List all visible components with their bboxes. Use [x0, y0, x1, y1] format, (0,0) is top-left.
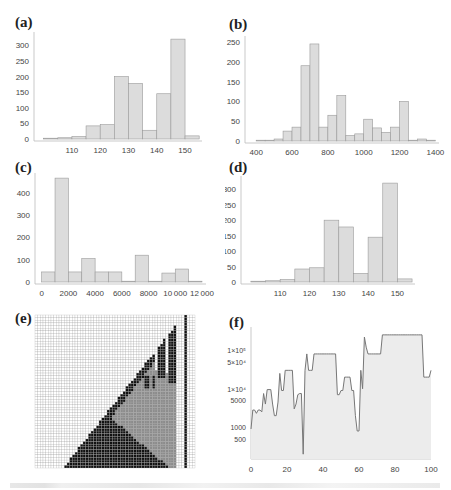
histogram-bar: [280, 280, 295, 282]
histogram-bar: [346, 135, 355, 141]
panel-b: (b) 050100150200250400600800100012001400: [225, 0, 451, 155]
histogram-bar: [143, 130, 157, 139]
x-tick-label: 1200: [391, 148, 409, 155]
histogram-bar: [355, 134, 364, 141]
x-tick-label: 400: [249, 148, 263, 155]
histogram-bar: [266, 281, 281, 282]
histogram-bar: [397, 279, 412, 282]
histogram-bar: [108, 272, 121, 282]
x-tick-label: 140: [361, 289, 375, 298]
y-tick-label: 100: [227, 97, 241, 106]
histogram-bar: [135, 255, 148, 282]
panel-f: (f) 500100050001×10⁴5×10⁴1×10⁵0204060801…: [225, 305, 451, 480]
x-tick-label: 130: [332, 289, 346, 298]
y-tick-label: 0: [26, 278, 31, 287]
x-tick-label: 1400: [427, 148, 445, 155]
x-tick-label: 12 000: [190, 289, 214, 298]
y-tick-label: 0: [236, 137, 241, 146]
histogram-bar: [95, 272, 108, 282]
y-tick-label: 250: [227, 38, 241, 47]
y-tick-label: 50: [20, 119, 29, 128]
histogram-bar: [251, 281, 266, 282]
y-tick-label: 50: [231, 117, 240, 126]
x-tick-label: 800: [321, 148, 335, 155]
histogram-bar: [409, 140, 418, 141]
histogram-bar: [310, 44, 319, 141]
y-tick-label: 150: [16, 88, 30, 97]
y-tick-label: 1×10⁴: [227, 386, 246, 393]
histogram-bar: [175, 269, 188, 282]
histogram-bar: [82, 259, 95, 282]
y-tick-label: 100: [225, 247, 237, 256]
y-tick-label: 250: [225, 201, 237, 210]
histogram-c: 01002003004000200040006000800010 00012 0…: [0, 155, 225, 305]
histogram-bar: [171, 39, 185, 139]
y-tick-label: 5×10⁴: [227, 359, 246, 366]
y-tick-label: 300: [17, 211, 31, 220]
y-tick-label: 200: [17, 233, 31, 242]
y-tick-label: 0: [232, 278, 237, 287]
histogram-bar: [55, 178, 68, 282]
x-tick-label: 100: [424, 465, 438, 474]
histogram-bar: [328, 115, 337, 141]
y-tick-label: 100: [17, 256, 31, 265]
histogram-bar: [400, 101, 409, 141]
histogram-bar: [100, 125, 114, 139]
x-tick-label: 2000: [59, 289, 77, 298]
panel-d-label: (d): [229, 159, 247, 176]
y-tick-label: 5000: [230, 397, 246, 404]
x-tick-label: 120: [94, 146, 108, 155]
histogram-bar: [368, 237, 383, 282]
histogram-bar: [373, 128, 382, 141]
log-line-chart: 500100050001×10⁴5×10⁴1×10⁵020406080100: [225, 305, 451, 480]
x-tick-label: 140: [150, 146, 164, 155]
y-tick-label: 0: [25, 135, 30, 144]
histogram-bar: [324, 220, 339, 282]
y-tick-label: 150: [225, 232, 237, 241]
x-tick-label: 40: [319, 465, 328, 474]
histogram-bar: [44, 138, 58, 139]
x-tick-label: 110: [274, 289, 287, 298]
histogram-bar: [382, 132, 391, 141]
panel-b-label: (b): [229, 16, 247, 33]
x-tick-label: 120: [303, 289, 317, 298]
histogram-bar: [364, 119, 373, 141]
x-tick-label: 20: [283, 465, 292, 474]
x-tick-label: 0: [39, 289, 44, 298]
panel-a-label: (a): [15, 14, 33, 31]
histogram-bar: [265, 140, 274, 141]
histogram-bar: [417, 139, 426, 141]
histogram-bar: [58, 138, 72, 139]
histogram-d: 050100150200250300110120130140150: [225, 155, 451, 305]
histogram-bar: [426, 140, 435, 141]
panel-a: (a) 050100150200250300110120130140150: [0, 0, 225, 155]
histogram-bar: [149, 281, 162, 282]
x-tick-label: 4000: [86, 289, 104, 298]
panel-c: (c) 01002003004000200040006000800010 000…: [0, 155, 225, 305]
histogram-bar: [339, 227, 354, 282]
histogram-bar: [391, 127, 400, 141]
histogram-bar: [256, 140, 265, 141]
x-tick-label: 60: [355, 465, 364, 474]
x-tick-label: 110: [66, 146, 79, 155]
histogram-bar: [309, 268, 324, 282]
histogram-bar: [72, 137, 86, 139]
y-tick-label: 100: [16, 104, 30, 113]
panel-e: (e): [0, 305, 225, 480]
panel-e-label: (e): [15, 310, 32, 327]
y-tick-label: 150: [227, 78, 241, 87]
histogram-bar: [157, 94, 171, 139]
histogram-bar: [295, 269, 310, 282]
panel-d: (d) 050100150200250300110120130140150: [225, 155, 451, 305]
x-tick-label: 0: [249, 465, 254, 474]
histogram-bar: [383, 183, 398, 282]
x-tick-label: 150: [391, 289, 405, 298]
histogram-bar: [319, 127, 328, 141]
cellular-automaton-grid: [0, 305, 225, 480]
histogram-bar: [68, 272, 81, 282]
x-tick-label: 1000: [355, 148, 373, 155]
histogram-bar: [274, 139, 283, 141]
histogram-bar: [128, 83, 142, 139]
histogram-bar: [283, 131, 292, 141]
y-tick-label: 300: [16, 41, 30, 50]
